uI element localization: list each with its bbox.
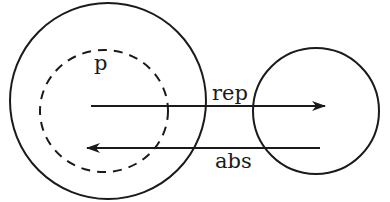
abstraction-representation-diagram: p rep abs [0, 0, 390, 202]
label-abs: abs [215, 149, 252, 173]
large-circle [10, 3, 206, 199]
label-rep: rep [212, 81, 248, 105]
small-circle [253, 48, 379, 174]
label-p: p [94, 51, 107, 75]
